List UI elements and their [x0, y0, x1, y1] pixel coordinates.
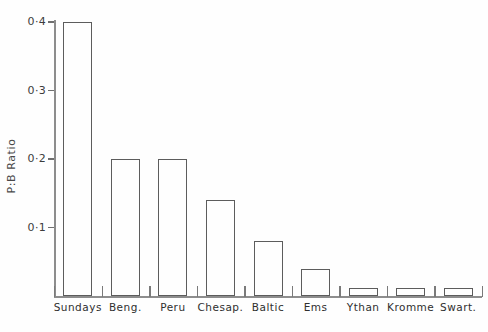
x-axis-tick-mark [102, 286, 103, 297]
x-axis-tick-mark [244, 286, 245, 297]
x-axis-tick-mark [54, 286, 55, 297]
bar [158, 159, 187, 296]
category-label: Baltic [252, 301, 284, 313]
y-axis-tick-mark [48, 21, 54, 22]
category-label: Chesap. [198, 301, 244, 313]
y-axis-tick-label: 0·1 [14, 221, 46, 234]
x-axis-line [54, 296, 482, 298]
x-axis-tick-mark [197, 286, 198, 297]
y-axis-tick-label: 0·2 [14, 152, 46, 165]
bar [111, 159, 140, 296]
y-axis-tick-label: 0·3 [14, 84, 46, 97]
bar [444, 288, 473, 296]
y-axis-tick-mark [48, 158, 54, 159]
y-axis-tick-mark [48, 227, 54, 228]
category-label: Ythan [347, 301, 380, 313]
bar [301, 269, 330, 296]
category-label: Ems [304, 301, 328, 313]
bar [349, 288, 378, 296]
bar [396, 288, 425, 296]
x-axis-tick-mark [387, 286, 388, 297]
bar [63, 22, 92, 296]
bar-chart-figure: P:B Ratio 0·40·30·20·1 SundaysBeng.PeruC… [0, 0, 488, 332]
category-label: Swart. [440, 301, 476, 313]
category-label: Kromme [387, 301, 434, 313]
x-axis-tick-mark [292, 286, 293, 297]
bar [206, 200, 235, 296]
bar [254, 241, 283, 296]
x-axis-tick-mark [149, 286, 150, 297]
x-axis-tick-mark [482, 286, 483, 297]
x-axis-tick-mark [434, 286, 435, 297]
x-axis-tick-mark [339, 286, 340, 297]
y-axis-tick-label: 0·4 [14, 15, 46, 28]
y-axis-line [54, 20, 56, 297]
y-axis-tick-mark [48, 90, 54, 91]
category-label: Beng. [109, 301, 142, 313]
y-axis-label: P:B Ratio [0, 0, 22, 332]
category-label: Sundays [54, 301, 102, 313]
category-label: Peru [160, 301, 185, 313]
